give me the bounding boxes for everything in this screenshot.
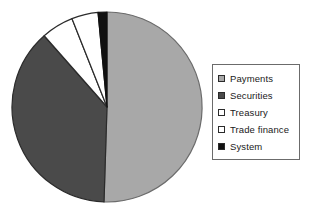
legend-item-trade-finance[interactable]: Trade finance (218, 121, 295, 137)
legend-label-trade-finance: Trade finance (230, 124, 289, 135)
pie-chart-area (8, 8, 206, 206)
legend-item-system[interactable]: System (218, 138, 295, 154)
pie-chart-svg (8, 8, 206, 206)
legend-label-system: System (230, 141, 262, 152)
legend-label-securities: Securities (230, 90, 273, 101)
legend-item-treasury[interactable]: Treasury (218, 104, 295, 120)
pie-slice-payments[interactable] (104, 12, 202, 202)
legend-swatch-securities (218, 92, 225, 99)
pie-chart-figure: Payments Securities Treasury Trade finan… (0, 0, 309, 210)
legend-label-payments: Payments (230, 73, 273, 84)
legend-item-payments[interactable]: Payments (218, 70, 295, 86)
legend-swatch-system (218, 143, 225, 150)
legend-swatch-payments (218, 75, 225, 82)
chart-legend: Payments Securities Treasury Trade finan… (212, 64, 300, 160)
legend-label-treasury: Treasury (230, 107, 268, 118)
pie-slice-group (12, 12, 202, 202)
legend-swatch-trade-finance (218, 126, 225, 133)
legend-swatch-treasury (218, 109, 225, 116)
legend-item-securities[interactable]: Securities (218, 87, 295, 103)
